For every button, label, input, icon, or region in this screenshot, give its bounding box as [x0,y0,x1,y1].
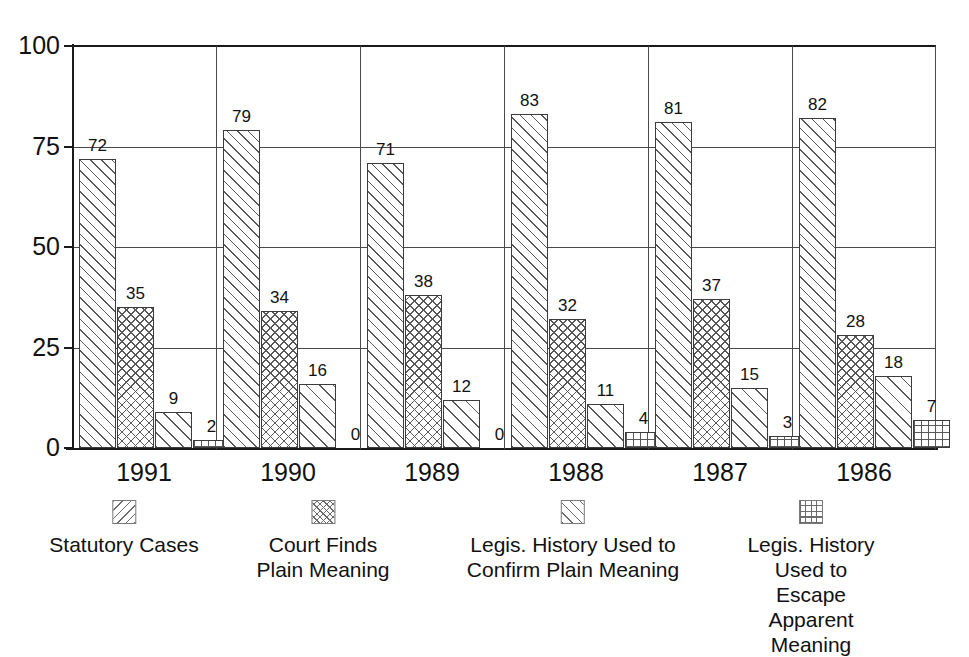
bar [155,412,192,448]
bar [261,311,298,448]
chart-legend: Statutory CasesCourt Finds Plain Meaning… [0,500,969,634]
bar-value-label: 18 [884,354,903,371]
bar-group-1987: 8137153 [648,0,792,448]
bar-value-label: 3 [783,414,792,431]
legend-item-3[interactable]: Legis. History Used to Confirm Plain Mea… [467,500,679,582]
plot-area: 1007550250 72359279341607138120833211481… [0,0,969,500]
legend-label: Court Finds Plain Meaning [256,532,389,582]
bar-value-label: 28 [846,313,865,330]
bar-value-label: 12 [452,378,471,395]
x-axis-line [66,448,938,450]
bar-value-label: 79 [232,108,251,125]
bar-value-label: 15 [740,366,759,383]
bar-value-label: 38 [414,273,433,290]
bar [799,118,836,448]
bar-value-label: 72 [88,137,107,154]
bar [693,299,730,448]
bar [731,388,768,448]
bar-group-1990: 7934160 [216,0,360,448]
legend-label: Statutory Cases [49,532,198,557]
bar-value-label: 35 [126,285,145,302]
bar [299,384,336,448]
bar [511,114,548,448]
bar-group-1986: 8228187 [792,0,936,448]
x-axis-label-1987: 1987 [692,458,748,486]
bar-groups: 7235927934160713812083321148137153822818… [0,0,969,448]
bar-value-label: 11 [597,382,615,399]
legend-label: Legis. History Used to Confirm Plain Mea… [467,532,679,582]
bar [913,420,950,448]
bar-value-label: 32 [558,297,577,314]
legend-label: Legis. History Used to Escape Apparent M… [732,532,890,657]
x-axis-label-1986: 1986 [836,458,892,486]
bar-value-label: 4 [639,410,648,427]
bar [223,130,260,448]
x-axis-label-1990: 1990 [260,458,316,486]
bar-value-label: 9 [169,390,178,407]
bar [117,307,154,448]
bar [367,163,404,448]
bar-value-label: 71 [376,141,395,158]
bar-group-1991: 723592 [72,0,216,448]
bar-group-1989: 7138120 [360,0,504,448]
bar-value-label: 37 [702,277,721,294]
bar-value-label: 81 [664,100,683,117]
bar-value-label: 0 [351,426,360,443]
bar [79,159,116,448]
bar [443,400,480,448]
x-axis-label-1988: 1988 [548,458,604,486]
legend-item-4[interactable]: Legis. History Used to Escape Apparent M… [732,500,890,657]
x-axis-label-1989: 1989 [404,458,460,486]
bar-value-label: 34 [270,289,289,306]
x-axis-label-1991: 1991 [116,458,172,486]
bar [655,122,692,448]
diagonal-hatch-swatch [112,500,136,524]
bar-value-label: 0 [495,426,504,443]
bar-value-label: 82 [808,96,827,113]
bar-value-label: 2 [207,418,216,435]
legend-item-1[interactable]: Statutory Cases [49,500,198,557]
bar [549,319,586,448]
bar [875,376,912,448]
bar-group-1988: 8332114 [504,0,648,448]
bar-value-label: 83 [520,92,539,109]
bar [837,335,874,448]
legend-item-2[interactable]: Court Finds Plain Meaning [256,500,389,582]
diagonal-hatch-wide-swatch [561,500,585,524]
bar [405,295,442,448]
cross-hatch-swatch [311,500,335,524]
grid-hatch-swatch [799,500,823,524]
bar [587,404,624,448]
bar-value-label: 7 [927,398,936,415]
bar-value-label: 16 [308,362,327,379]
